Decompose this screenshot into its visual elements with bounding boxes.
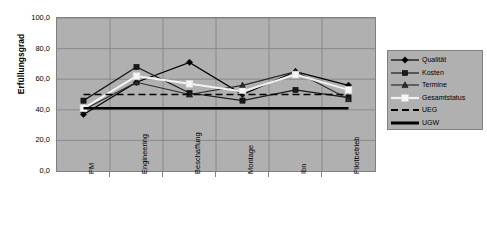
y-tick-label: 20,0 (16, 136, 50, 144)
x-axis-tick-labels: PMEngineeringBeschaffungMontageIbnPilotb… (56, 174, 376, 234)
plot-svg (57, 18, 375, 171)
legend-label: Gesamtstatus (420, 94, 465, 102)
x-tick-label: Engineering (140, 134, 149, 174)
legend-label: UGW (420, 119, 439, 127)
y-tick-label: 40,0 (16, 106, 50, 114)
legend-marker-kosten-icon (390, 67, 420, 79)
y-axis-tick-labels: 100,080,060,040,020,00,0 (12, 0, 50, 234)
legend-item-ugw: UGW (390, 117, 480, 130)
data-point-square (81, 98, 86, 103)
chart-container: Erfüllungsgrad 100,080,060,040,020,00,0 … (0, 0, 487, 234)
data-point-square (293, 87, 298, 92)
data-point-white-square (402, 94, 409, 101)
data-point-white-square (292, 71, 299, 78)
legend-label: UEG (420, 106, 437, 114)
plot-area (56, 17, 376, 172)
chart-legend: QualitätKostenTermineGesamtstatusUEGUGW (387, 50, 483, 130)
data-point-white-square (186, 80, 193, 87)
data-point-diamond (186, 59, 192, 65)
legend-marker-gesamtstatus-icon (390, 92, 420, 104)
legend-marker-ueg-icon (390, 104, 420, 116)
y-tick-label: 100,0 (16, 14, 50, 22)
x-tick-label: Ibn (299, 164, 308, 174)
y-tick-label: 80,0 (16, 45, 50, 53)
data-point-white-square (345, 87, 352, 94)
x-tick-label: Montage (246, 145, 255, 174)
legend-item-gesamtstatus: Gesamtstatus (390, 92, 480, 105)
data-point-square (134, 64, 139, 69)
y-tick-label: 60,0 (16, 75, 50, 83)
legend-label: Qualität (420, 56, 446, 64)
legend-item-kosten: Kosten (390, 67, 480, 80)
data-point-white-square (133, 73, 140, 80)
data-point-square (240, 98, 245, 103)
x-tick-label: PM (87, 163, 96, 174)
x-tick-label: Beschaffung (193, 132, 202, 174)
legend-item-ueg: UEG (390, 104, 480, 117)
y-tick-label: 0,0 (16, 167, 50, 175)
data-point-square (402, 70, 407, 75)
legend-marker-termine-icon (390, 79, 420, 91)
legend-item-qualität: Qualität (390, 54, 480, 67)
legend-marker-ugw-icon (390, 117, 420, 129)
legend-marker-qualität-icon (390, 54, 420, 66)
x-tick-label: Pilotbetrieb (352, 136, 361, 174)
legend-label: Kosten (420, 69, 444, 77)
legend-item-termine: Termine (390, 79, 480, 92)
data-point-diamond (402, 57, 408, 63)
legend-label: Termine (420, 81, 447, 89)
